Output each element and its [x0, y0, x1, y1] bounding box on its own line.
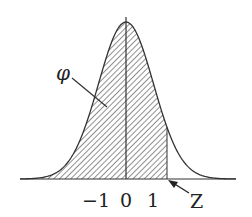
z-arrowhead-icon — [168, 180, 178, 188]
tick-label-0: 0 — [120, 189, 132, 211]
tick-label-1: 1 — [147, 189, 159, 211]
tick-label-neg1: −1 — [82, 189, 110, 211]
z-label: Z — [190, 190, 203, 212]
phi-label: φ — [56, 61, 70, 85]
normal-distribution-diagram: φ −1 0 1 Z — [0, 0, 252, 217]
